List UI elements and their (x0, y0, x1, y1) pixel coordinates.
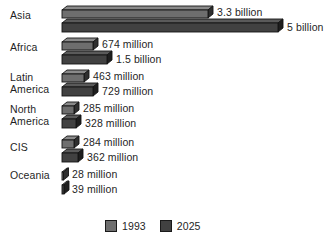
value-label-latin-america-2025: 729 million (102, 86, 153, 97)
value-label-oceania-2025: 39 million (72, 184, 117, 195)
bar-africa-1993 (62, 38, 98, 50)
value-label-cis-2025: 362 million (87, 152, 138, 163)
chart-legend: 1993 2025 (105, 220, 201, 232)
category-label-cis: CIS (10, 142, 28, 154)
bar-africa-2025 (62, 51, 112, 64)
bar-oceania-1993 (62, 168, 69, 180)
value-label-asia-1993: 3.3 billion (217, 7, 262, 18)
bar-latin-america-2025 (62, 83, 98, 96)
category-label-oceania: Oceania (10, 170, 50, 182)
legend-swatch-2025-icon (160, 220, 172, 232)
bar-latin-america-1993 (62, 70, 89, 82)
bar-oceania-2025 (62, 181, 69, 194)
legend-label-1993: 1993 (122, 221, 146, 232)
legend-swatch-1993-icon (105, 220, 117, 232)
legend-item-1993: 1993 (105, 220, 146, 232)
value-label-north-america-2025: 328 million (85, 118, 136, 129)
legend-item-2025: 2025 (160, 220, 201, 232)
category-label-north-america: North America (10, 104, 49, 127)
value-label-asia-2025: 5 billion (287, 22, 324, 33)
value-label-oceania-1993: 28 million (72, 169, 117, 180)
value-label-africa-1993: 674 million (102, 39, 153, 50)
bar-north-america-2025 (62, 115, 81, 128)
population-bar-chart: Asia Africa Latin America North America … (0, 0, 329, 244)
bar-cis-1993 (62, 136, 79, 148)
bar-asia-1993 (62, 6, 213, 18)
category-label-latin-america: Latin America (10, 72, 49, 95)
value-label-africa-2025: 1.5 billion (116, 54, 161, 65)
bar-asia-2025 (62, 19, 283, 32)
bar-north-america-1993 (62, 102, 79, 114)
value-label-cis-1993: 284 million (83, 137, 134, 148)
value-label-north-america-1993: 285 million (83, 103, 134, 114)
legend-label-2025: 2025 (177, 221, 201, 232)
category-label-asia: Asia (10, 10, 31, 22)
bar-cis-2025 (62, 149, 83, 162)
value-label-latin-america-1993: 463 million (93, 71, 144, 82)
category-label-africa: Africa (10, 42, 37, 54)
bars-layer (0, 0, 329, 244)
